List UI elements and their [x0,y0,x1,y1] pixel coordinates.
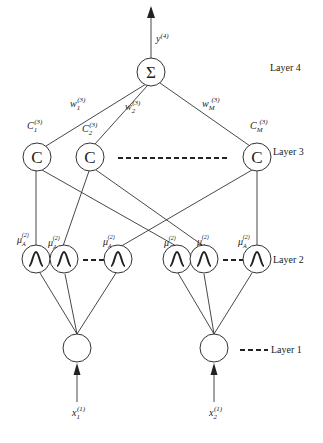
c-label-2: C2(3) [82,121,98,137]
layer3-node-m: C [243,143,271,171]
c-label-m: CM(3) [250,118,268,134]
layer4-to-layer3-edges [46,83,250,146]
layer2-node-a21 [163,245,191,273]
svg-text:C: C [84,148,95,167]
layer1-label: Layer 1 [271,344,302,355]
mu-label-a2n: μA(2) [237,234,250,249]
weight-label-2: w2(3) [125,99,141,115]
weight-label-m: wM(3) [202,96,220,112]
layer2-node-a1n [104,245,132,273]
output-arrow [147,6,155,58]
svg-text:C: C [251,148,262,167]
layer3-to-layer2-edges [36,170,257,248]
layer2-node-a11 [22,245,50,273]
weight-label-1: w1(3) [70,96,86,112]
input-label-x2: x2(1) [208,405,223,421]
layer2-node-a12 [50,245,78,273]
layer3-node-2: C [76,143,104,171]
sigma-icon: Σ [146,63,156,82]
c-label-1: C1(3) [27,118,43,134]
input-arrows [74,363,218,402]
input-label-x1: x1(1) [71,405,86,421]
output-label: y(4) [155,32,169,44]
layer1-node-2 [200,334,228,362]
layer2-label: Layer 2 [273,254,304,265]
layer2-node-a22 [190,245,218,273]
mu-label-a11: μA(2) [16,232,29,247]
layer2-to-layer1-edges [40,273,252,334]
fuzzy-neural-network-diagram: y(4) Σ Layer 4 w1(3) [0,0,323,443]
svg-text:C: C [31,148,42,167]
layer3-node-1: C [23,143,51,171]
layer2-node-a2n [243,245,271,273]
layer2-mu-labels: μA(2) μA(2) μA(2) μA(2) μA(2) μA(2) [16,232,250,250]
layer4-label: Layer 4 [270,62,301,73]
layer3-label: Layer 3 [273,146,304,157]
sum-node: Σ [137,58,165,86]
layer1-node-1 [63,334,91,362]
